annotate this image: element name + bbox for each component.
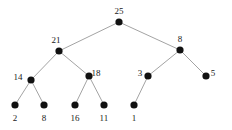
tree-node-label: 8 <box>42 114 47 123</box>
tree-node-label: 3 <box>138 69 143 78</box>
tree-edge <box>31 51 59 80</box>
tree-node[interactable] <box>11 101 18 108</box>
tree-node[interactable] <box>144 72 151 79</box>
tree-node[interactable] <box>202 72 209 79</box>
tree-edge <box>15 80 31 105</box>
tree-node-label: 21 <box>51 36 60 45</box>
tree-node[interactable] <box>130 101 137 108</box>
tree-node-label: 1 <box>132 114 137 123</box>
tree-node-label: 5 <box>211 69 216 78</box>
tree-node[interactable] <box>55 47 62 54</box>
tree-node-label: 25 <box>114 7 123 16</box>
tree-node[interactable] <box>71 101 78 108</box>
tree-node-label: 2 <box>13 114 18 123</box>
tree-edge <box>119 22 180 50</box>
binary-tree-figure: 252181418352816111 <box>0 0 232 130</box>
tree-edge <box>59 51 89 76</box>
tree-node-label: 18 <box>91 69 100 78</box>
tree-node[interactable] <box>40 101 47 108</box>
tree-node-label: 16 <box>70 114 79 123</box>
tree-node-label: 8 <box>178 35 183 44</box>
tree-edge <box>89 76 104 105</box>
tree-edge <box>59 22 119 51</box>
tree-edge <box>75 76 89 105</box>
tree-node[interactable] <box>115 18 122 25</box>
tree-edge <box>134 76 148 105</box>
tree-node[interactable] <box>176 46 183 53</box>
tree-node-label: 14 <box>13 73 22 82</box>
tree-canvas <box>0 0 232 130</box>
tree-node[interactable] <box>100 101 107 108</box>
tree-edge <box>180 50 206 76</box>
node-layer <box>11 18 209 108</box>
tree-node-label: 11 <box>100 114 109 123</box>
tree-node[interactable] <box>27 76 34 83</box>
tree-edge <box>148 50 180 76</box>
tree-edge <box>31 80 44 105</box>
